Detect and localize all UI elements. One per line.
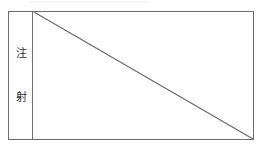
label-char-zhu: 注	[9, 48, 33, 60]
table-content-cell	[34, 12, 253, 139]
diagonal-strikethrough-line	[34, 12, 253, 139]
form-table: 注 射	[8, 11, 254, 140]
table-label-column: 注 射	[9, 12, 33, 139]
label-char-she: 射	[9, 92, 33, 104]
scan-edge-artifact	[30, 1, 150, 3]
scanned-page: 注 射	[0, 0, 268, 148]
